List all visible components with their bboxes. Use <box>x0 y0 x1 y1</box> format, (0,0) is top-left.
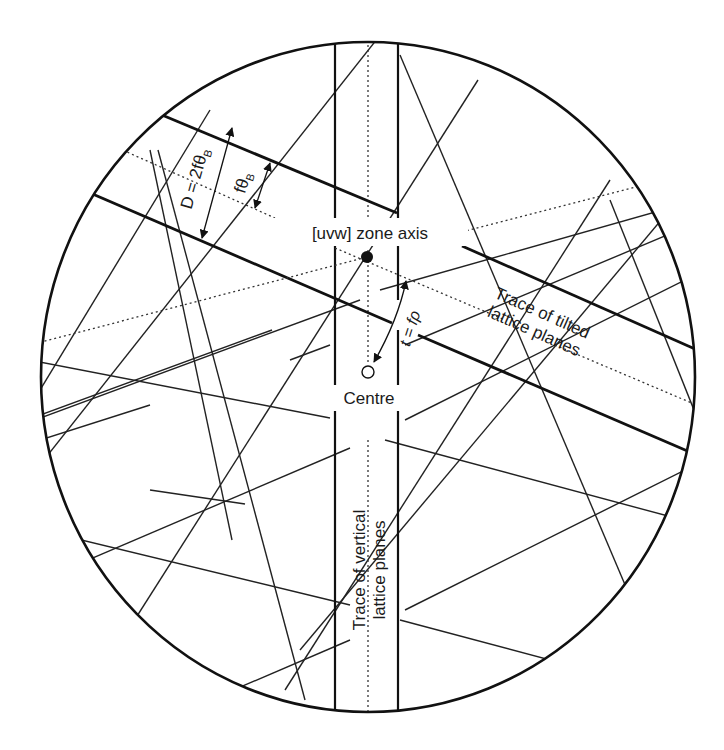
svg-text:t = fρ: t = fρ <box>396 308 423 348</box>
centre-label: Centre <box>343 389 394 408</box>
kikuchi-lines <box>30 10 720 730</box>
band-width-arrow <box>202 128 232 238</box>
half-width-label: fθB <box>230 169 257 196</box>
second-band-centre-trace-right <box>462 165 720 232</box>
kikuchi-diagram: [uvw] zone axis Centre Trace of tilted l… <box>0 0 724 750</box>
centre-point <box>362 366 374 378</box>
half-width-arrow <box>255 163 270 208</box>
tilt-label: t = fρ <box>396 308 423 348</box>
svg-text:fθB: fθB <box>230 169 257 196</box>
thin-kikuchi-lines <box>40 10 720 730</box>
svg-text:lattice planes: lattice planes <box>370 520 389 619</box>
zone-axis-label: [uvw] zone axis <box>312 224 428 243</box>
svg-text:Trace of vertical: Trace of vertical <box>350 510 369 630</box>
vertical-trace-label: Trace of vertical lattice planes <box>350 510 389 630</box>
zone-axis-point <box>361 251 373 263</box>
